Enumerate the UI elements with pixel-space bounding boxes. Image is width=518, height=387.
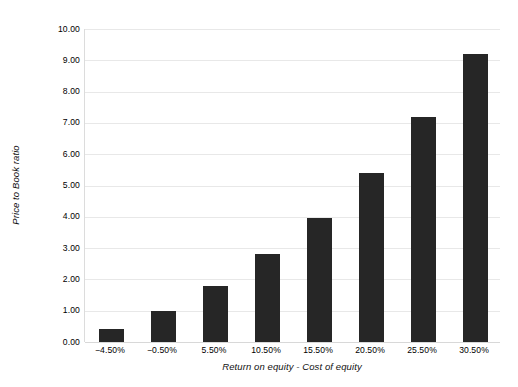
y-tick-label: 2.00 [10, 275, 80, 284]
bar [307, 218, 332, 342]
bar [255, 254, 280, 342]
y-axis-tick-labels: 0.001.002.003.004.005.006.007.008.009.00… [0, 0, 80, 387]
x-tick-label: 5.50% [184, 345, 244, 355]
x-tick-label: −0.50% [132, 345, 192, 355]
y-tick-label: 6.00 [10, 150, 80, 159]
x-axis-tick-labels: −4.50%−0.50%5.50%10.50%15.50%20.50%25.50… [84, 345, 500, 359]
x-tick-label: 15.50% [288, 345, 348, 355]
x-axis-title: Return on equity - Cost of equity [84, 361, 500, 372]
bar [203, 286, 228, 342]
bar [463, 54, 488, 342]
plot-area [84, 29, 500, 342]
y-tick-label: 0.00 [10, 338, 80, 347]
gridline [85, 342, 500, 343]
bar [99, 329, 124, 342]
price-to-book-bar-chart: Price to Book ratio 0.001.002.003.004.00… [0, 0, 518, 387]
y-tick-label: 1.00 [10, 306, 80, 315]
y-tick-label: 3.00 [10, 244, 80, 253]
y-tick-label: 4.00 [10, 212, 80, 221]
x-tick-label: 30.50% [444, 345, 504, 355]
x-tick-label: 20.50% [340, 345, 400, 355]
x-tick-label: −4.50% [80, 345, 140, 355]
bar [411, 117, 436, 342]
y-tick-label: 7.00 [10, 118, 80, 127]
x-tick-label: 25.50% [392, 345, 452, 355]
y-tick-label: 8.00 [10, 87, 80, 96]
bars-group [85, 29, 500, 342]
y-tick-label: 9.00 [10, 56, 80, 65]
bar [151, 311, 176, 342]
x-tick-label: 10.50% [236, 345, 296, 355]
y-tick-label: 5.00 [10, 181, 80, 190]
bar [359, 173, 384, 342]
y-tick-label: 10.00 [10, 25, 80, 34]
